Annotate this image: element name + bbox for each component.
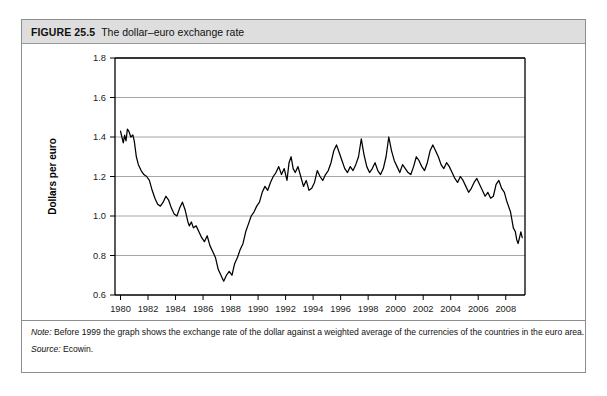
x-tick-label: 1994 [303,304,324,314]
y-tick-label: 1.8 [93,53,106,63]
x-tick-label: 2000 [385,304,406,314]
x-axis-tick-labels: 1980198219841986198819901992199419961998… [110,304,516,314]
x-tick-label: 1988 [220,304,241,314]
x-tick-label: 1992 [275,304,296,314]
chart-plot-region: 0.60.81.01.21.41.61.8 198019821984198619… [22,44,585,320]
x-tick-label: 1986 [193,304,214,314]
y-tick-label: 1.4 [93,132,106,142]
x-tick-label: 1996 [330,304,351,314]
x-tick-label: 1980 [110,304,131,314]
x-tick-label: 2002 [413,304,434,314]
y-axis-tick-labels: 0.60.81.01.21.41.61.8 [93,53,106,300]
x-tick-label: 2006 [468,304,489,314]
source-label: Source: [31,344,61,354]
x-axis-ticks [121,295,506,300]
figure-number-label: FIGURE 25.5 [31,26,95,38]
y-axis-ticks [110,58,115,295]
source-text: Ecowin. [61,344,93,354]
y-tick-label: 0.8 [93,251,106,261]
x-tick-label: 1998 [358,304,379,314]
line-chart: 0.60.81.01.21.41.61.8 198019821984198619… [22,44,585,320]
note-label: Note: [31,327,52,337]
y-tick-label: 1.2 [93,172,106,182]
x-tick-label: 1982 [138,304,159,314]
note-line: Note: Before 1999 the graph shows the ex… [31,328,575,337]
x-tick-label: 2004 [440,304,461,314]
gridlines [115,58,525,256]
figure-header: FIGURE 25.5 The dollar–euro exchange rat… [22,20,585,44]
y-axis-title: Dollars per euro [47,138,58,215]
x-tick-label: 2008 [495,304,516,314]
figure-title: The dollar–euro exchange rate [101,26,244,38]
x-tick-label: 1990 [248,304,269,314]
exchange-rate-line [121,129,523,281]
figure-container: FIGURE 25.5 The dollar–euro exchange rat… [21,19,586,373]
source-line: Source: Ecowin. [31,345,575,354]
y-tick-label: 0.6 [93,290,106,300]
y-tick-label: 1.6 [93,93,106,103]
note-text: Before 1999 the graph shows the exchange… [52,327,585,337]
y-tick-label: 1.0 [93,211,106,221]
x-tick-label: 1984 [165,304,186,314]
figure-footer: Note: Before 1999 the graph shows the ex… [22,321,585,362]
